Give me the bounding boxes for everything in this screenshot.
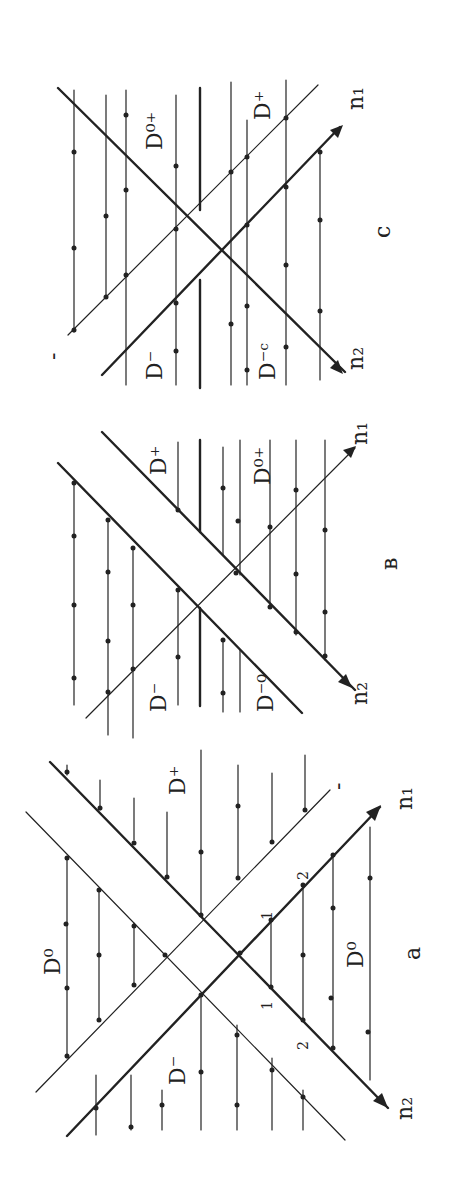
tick-label: 1 bbox=[259, 911, 275, 920]
region-label: D⁺ bbox=[165, 766, 190, 795]
region-label: D⁺ bbox=[146, 446, 171, 475]
panel-label-a: a bbox=[400, 947, 425, 960]
region-label: D⁻ bbox=[142, 351, 167, 380]
axis-label-n1: n₁ bbox=[343, 87, 368, 110]
region-label: D⁻⁰ bbox=[253, 674, 278, 712]
panel-label-b: в bbox=[377, 558, 402, 570]
axis-label-n1: n₁ bbox=[392, 787, 417, 810]
minus-mark: - bbox=[40, 353, 65, 360]
region-label: D⁰⁺ bbox=[142, 112, 167, 150]
region-label: D⁻ᶜ bbox=[255, 343, 280, 380]
axis-label-n2: n₂ bbox=[392, 1097, 417, 1120]
tick-label: 1 bbox=[259, 1001, 275, 1010]
panel-a: D⁰ D⁺ D⁻ D⁰ 1 2 1 2 n₁ n₂ a - bbox=[26, 750, 425, 1140]
axis-label-n1: n₁ bbox=[347, 422, 372, 445]
region-label: D⁰ bbox=[40, 948, 65, 975]
region-label: D⁰⁺ bbox=[250, 447, 275, 485]
diagram-canvas: D⁰⁺ D⁺ D⁻ D⁻ᶜ n₁ n₂ c - bbox=[0, 0, 454, 1201]
panel-label-c: c bbox=[370, 226, 395, 238]
region-label: D⁻ bbox=[146, 683, 171, 712]
minus-mark: - bbox=[325, 783, 350, 790]
tick-label: 2 bbox=[295, 1041, 311, 1050]
panel-c: D⁰⁺ D⁺ D⁻ D⁻ᶜ n₁ n₂ c - bbox=[40, 80, 395, 388]
panel-b: D⁺ D⁰⁺ D⁻ D⁻⁰ n₁ n₂ в bbox=[58, 422, 402, 738]
axis-label-n2: n₂ bbox=[343, 347, 368, 370]
axis-label-n2: n₂ bbox=[347, 682, 372, 705]
tick-label: 2 bbox=[295, 871, 311, 880]
region-label: D⁺ bbox=[250, 91, 275, 120]
region-label: D⁻ bbox=[165, 1056, 190, 1085]
region-label: D⁰ bbox=[343, 941, 368, 968]
